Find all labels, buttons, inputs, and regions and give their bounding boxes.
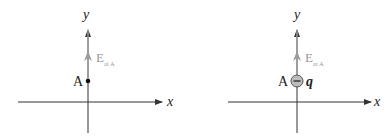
field-label-subscript: at A bbox=[104, 60, 115, 67]
field-label: E bbox=[96, 50, 104, 65]
point-label: A bbox=[73, 74, 84, 89]
diagram-canvas: y x A E at A y x A q E at A bbox=[0, 0, 392, 138]
y-axis-label: y bbox=[81, 7, 90, 22]
left-panel: y x A E at A bbox=[18, 7, 174, 133]
x-axis-label: x bbox=[373, 94, 381, 109]
point-a-dot bbox=[86, 79, 91, 84]
y-axis-label: y bbox=[292, 7, 301, 22]
field-label: E bbox=[305, 50, 313, 65]
point-label: A bbox=[278, 74, 289, 89]
field-label-subscript: at A bbox=[313, 60, 324, 67]
charge-label: q bbox=[306, 74, 313, 89]
right-panel: y x A q E at A bbox=[228, 7, 381, 133]
x-axis-label: x bbox=[166, 94, 174, 109]
